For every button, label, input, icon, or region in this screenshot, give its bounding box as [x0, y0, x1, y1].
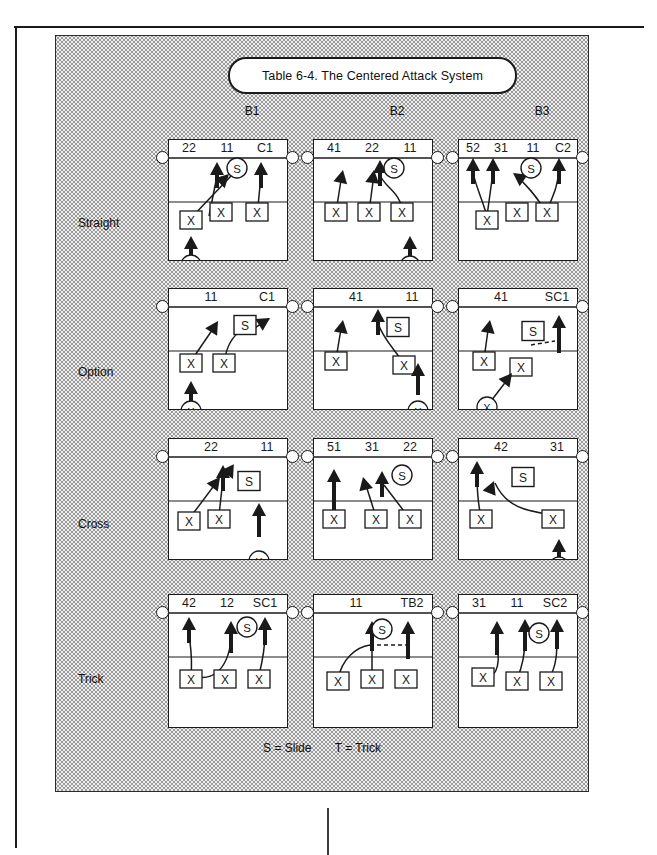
attack-labels: 11TB2	[350, 596, 424, 610]
net-post-right	[576, 151, 589, 164]
court-diagram-option-b2: 4111 S X X X	[313, 288, 433, 410]
net-post-left	[301, 300, 314, 313]
svg-text:X: X	[543, 206, 551, 220]
attack-label: 42	[182, 596, 196, 610]
attack-label: 41	[327, 141, 341, 155]
svg-text:X: X	[513, 206, 521, 220]
net-post-left	[156, 450, 169, 463]
page-rule-left	[15, 26, 17, 848]
play-routes: S X X X	[470, 461, 569, 559]
court-diagram-straight-b1: 2211C1 S X X X X	[168, 139, 288, 261]
column-header-b1: B1	[222, 104, 282, 118]
play-routes: S X X X X	[180, 158, 268, 260]
svg-text:S: S	[398, 470, 406, 482]
net-post-left	[156, 300, 169, 313]
attack-label: 31	[365, 440, 379, 454]
court-diagram-straight-b2: 412211 S X X X X	[313, 139, 433, 261]
play-routes: S X X X	[472, 619, 564, 690]
legend-slide: S = Slide	[263, 741, 311, 755]
svg-text:X: X	[332, 355, 340, 369]
attack-labels: 4231	[494, 440, 564, 454]
net-post-left	[446, 606, 459, 619]
row-label-cross: Cross	[78, 517, 168, 531]
svg-text:X: X	[187, 214, 195, 228]
svg-text:X: X	[414, 406, 422, 410]
net-post-left	[446, 300, 459, 313]
attack-label: C1	[257, 141, 273, 155]
attack-label: 31	[494, 141, 508, 155]
attack-label: 31	[550, 440, 564, 454]
svg-text:X: X	[513, 675, 521, 689]
svg-text:X: X	[480, 355, 488, 369]
net-post-right	[431, 450, 444, 463]
attack-label: 41	[349, 290, 363, 304]
svg-text:S: S	[527, 163, 535, 175]
net-post-right	[431, 151, 444, 164]
court-diagram-option-b1: 11C1 S X X X	[168, 288, 288, 410]
attack-label: 11	[350, 596, 363, 610]
attack-label: 11	[221, 141, 234, 155]
net-post-right	[576, 450, 589, 463]
attack-label: 42	[494, 440, 508, 454]
page-rule-bottom-center	[327, 808, 329, 855]
svg-text:X: X	[402, 673, 410, 687]
table-shaded-area: Table 6-4. The Centered Attack System B1…	[55, 35, 589, 792]
svg-text:X: X	[400, 359, 408, 373]
attack-labels: 11C1	[205, 290, 276, 304]
svg-text:X: X	[187, 673, 195, 687]
attack-label: 11	[527, 141, 540, 155]
court-diagram-trick-b3: 3111SC2 S X X X	[458, 594, 578, 728]
svg-text:S: S	[241, 319, 249, 333]
legend: S = Slide T = Trick	[56, 741, 588, 755]
svg-text:X: X	[365, 206, 373, 220]
net-post-left	[446, 450, 459, 463]
svg-text:X: X	[334, 675, 342, 689]
attack-label: 22	[182, 141, 196, 155]
svg-text:S: S	[519, 471, 527, 485]
net-post-left	[301, 450, 314, 463]
attack-label: 11	[404, 141, 417, 155]
svg-text:X: X	[398, 206, 406, 220]
svg-text:X: X	[255, 556, 263, 560]
column-header-b2: B2	[367, 104, 427, 118]
row-label-trick: Trick	[78, 672, 168, 686]
attack-label: C2	[555, 141, 571, 155]
svg-text:X: X	[483, 214, 491, 228]
row-label-option: Option	[78, 365, 168, 379]
attack-labels: 513122	[327, 440, 417, 454]
attack-labels: 523111C2	[466, 141, 571, 155]
net-post-right	[286, 151, 299, 164]
attack-labels: 2211C1	[182, 141, 273, 155]
play-routes: S X X X	[180, 312, 274, 409]
svg-text:X: X	[185, 515, 193, 529]
attack-label: 31	[472, 596, 486, 610]
net-post-right	[431, 300, 444, 313]
court-diagram-trick-b1: 4212SC1 S X X X	[168, 594, 288, 728]
row-label-straight: Straight	[78, 216, 168, 230]
page-rule-top	[14, 26, 644, 28]
net-post-left	[156, 151, 169, 164]
court-diagram-straight-b3: 523111C2 S X X X	[458, 139, 578, 261]
svg-text:X: X	[220, 357, 228, 371]
svg-text:X: X	[253, 206, 261, 220]
attack-label: 11	[406, 290, 419, 304]
court-diagram-cross-b2: 513122 S X X X	[313, 438, 433, 560]
attack-label: C1	[259, 290, 275, 304]
attack-label: 11	[511, 596, 524, 610]
table-title: Table 6-4. The Centered Attack System	[228, 57, 517, 94]
attack-label: SC1	[253, 596, 277, 610]
net-post-left	[446, 151, 459, 164]
svg-text:X: X	[332, 206, 340, 220]
svg-text:S: S	[233, 163, 241, 175]
attack-labels: 41SC1	[494, 290, 569, 304]
svg-text:X: X	[187, 357, 195, 371]
attack-label: 11	[205, 290, 218, 304]
attack-label: 11	[261, 440, 274, 454]
svg-text:X: X	[255, 673, 263, 687]
svg-text:X: X	[187, 406, 195, 410]
play-routes: S X X X	[323, 465, 421, 528]
attack-label: 22	[204, 440, 218, 454]
svg-text:X: X	[517, 361, 525, 375]
net-post-left	[301, 151, 314, 164]
attack-label: 22	[403, 440, 417, 454]
